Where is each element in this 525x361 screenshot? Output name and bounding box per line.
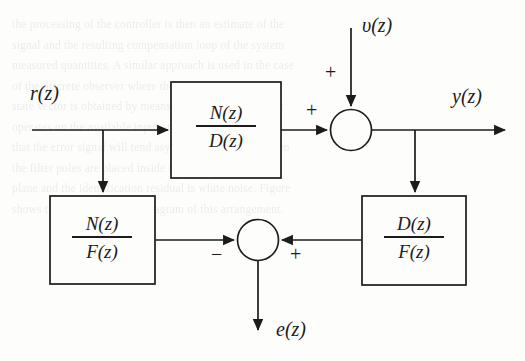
n-over-f-numerator: N(z) <box>84 213 121 235</box>
fraction-bar <box>196 125 256 126</box>
fraction-bar <box>384 236 444 237</box>
plant-denominator: D(z) <box>207 129 245 151</box>
error-sum-circle <box>238 220 279 261</box>
figure-canvas: the processing of the controller is then… <box>0 0 525 361</box>
signal-label-e: e(z) <box>276 318 306 341</box>
block-diagram-graphics <box>0 0 525 361</box>
output-sum-circle <box>331 110 372 151</box>
signal-label-v: υ(z) <box>362 14 392 37</box>
signal-label-y: y(z) <box>452 85 482 108</box>
signal-label-r: r(z) <box>30 82 59 105</box>
fraction-bar <box>72 236 132 237</box>
block-n-over-f-transfer-function: N(z) F(z) <box>72 213 132 262</box>
d-over-f-numerator: D(z) <box>395 213 433 235</box>
block-plant-transfer-function: N(z) D(z) <box>196 102 256 151</box>
block-d-over-f-transfer-function: D(z) F(z) <box>384 213 444 262</box>
error-sum-sign-left: − <box>211 244 222 264</box>
output-sum-sign-left: + <box>306 100 317 120</box>
n-over-f-denominator: F(z) <box>84 240 120 262</box>
error-sum-sign-right: + <box>290 244 301 264</box>
output-sum-sign-top: + <box>325 62 336 82</box>
plant-numerator: N(z) <box>208 102 245 124</box>
d-over-f-denominator: F(z) <box>396 240 432 262</box>
